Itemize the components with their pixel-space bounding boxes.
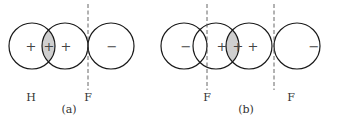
sign-label: − — [107, 39, 118, 54]
atom-label-f-right: F — [287, 91, 295, 104]
sign-label: + — [248, 39, 259, 54]
panel-b: − + + + − F F (b) — [161, 4, 320, 116]
panel-a: + + + − H F (a) — [9, 4, 134, 116]
sign-label: − — [181, 39, 192, 54]
sign-label: − — [309, 39, 320, 54]
atom-label-f-left: F — [203, 91, 211, 104]
sign-label: + — [233, 39, 244, 54]
sign-label: + — [61, 39, 72, 54]
orbital-overlap-diagram: + + + − H F (a) − + + + − F F (b) — [0, 0, 350, 119]
atom-label-f: F — [84, 91, 92, 104]
caption-b: (b) — [238, 103, 254, 116]
caption-a: (a) — [61, 103, 76, 116]
sign-label: + — [44, 39, 55, 54]
sign-label: + — [217, 39, 228, 54]
sign-label: + — [26, 39, 37, 54]
atom-label-h: H — [26, 91, 36, 104]
